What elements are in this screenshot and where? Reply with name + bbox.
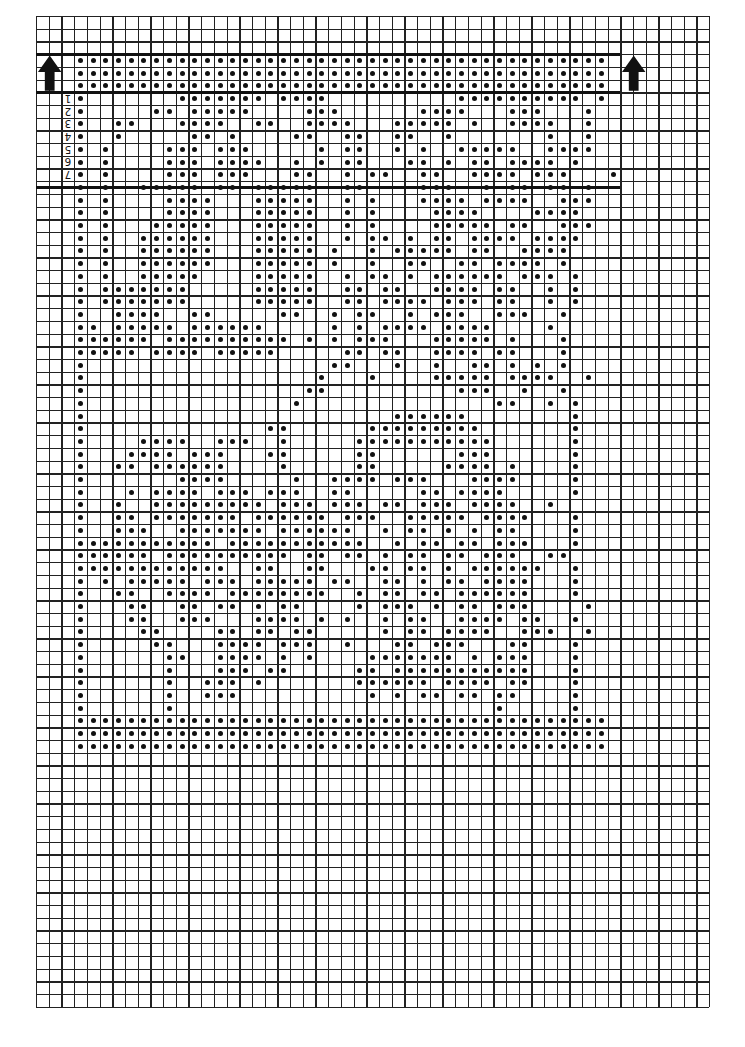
stitch-dot [434,541,439,546]
stitch-dot [294,58,299,63]
stitch-dot [205,731,210,736]
stitch-dot [510,515,515,520]
stitch-dot [408,414,413,419]
stitch-dot [472,693,477,698]
stitch-dot [561,337,566,342]
stitch-dot [510,731,515,736]
stitch-dot [307,515,312,520]
stitch-dot [548,147,553,152]
stitch-dot [446,579,451,584]
stitch-dot [345,299,350,304]
stitch-dot [78,706,83,711]
stitch-dot [345,363,350,368]
stitch-dot [192,617,197,622]
stitch-dot [383,528,388,533]
stitch-dot [256,642,261,647]
stitch-dot [586,744,591,749]
grid-line [36,16,709,17]
stitch-dot [573,541,578,546]
stitch-dot [561,388,566,393]
stitch-dot [561,350,566,355]
stitch-dot [307,96,312,101]
stitch-dot [129,617,134,622]
stitch-dot [497,312,502,317]
stitch-dot [154,325,159,330]
stitch-dot [167,223,172,228]
stitch-dot [281,198,286,203]
stitch-dot [421,477,426,482]
up-arrow-icon [621,54,646,96]
grid-line [36,308,709,309]
stitch-dot [192,452,197,457]
stitch-dot [510,198,515,203]
stitch-dot [91,541,96,546]
stitch-dot [497,236,502,241]
stitch-dot [129,350,134,355]
stitch-dot [573,490,578,495]
stitch-dot [205,109,210,114]
stitch-dot [370,274,375,279]
stitch-dot [294,401,299,406]
stitch-dot [586,147,591,152]
stitch-dot [192,71,197,76]
stitch-dot [281,744,286,749]
stitch-dot [548,744,553,749]
grid-line [36,842,709,843]
stitch-dot [218,744,223,749]
stitch-dot [472,452,477,457]
stitch-dot [497,528,502,533]
stitch-dot [370,439,375,444]
grid-line [36,384,709,385]
stitch-dot [459,58,464,63]
stitch-dot [218,109,223,114]
stitch-dot [91,71,96,76]
stitch-dot [180,172,185,177]
stitch-dot [472,477,477,482]
stitch-dot [78,223,83,228]
stitch-dot [78,147,83,152]
stitch-dot [573,579,578,584]
stitch-dot [218,452,223,457]
stitch-dot [497,401,502,406]
stitch-dot [434,363,439,368]
stitch-dot [129,731,134,736]
stitch-dot [434,287,439,292]
stitch-dot [307,744,312,749]
stitch-dot [205,744,210,749]
stitch-dot [510,541,515,546]
stitch-dot [294,312,299,317]
stitch-dot [180,541,185,546]
stitch-dot [561,71,566,76]
stitch-dot [383,299,388,304]
stitch-dot [370,58,375,63]
row-number-labels: 7654321 [62,92,74,181]
stitch-dot [561,210,566,215]
stitch-dot [192,541,197,546]
stitch-dot [243,668,248,673]
row-number: 1 [62,92,74,105]
stitch-dot [497,655,502,660]
stitch-dot [192,490,197,495]
stitch-dot [345,172,350,177]
stitch-dot [167,274,172,279]
stitch-dot [383,350,388,355]
stitch-dot [167,261,172,266]
stitch-dot [294,96,299,101]
grid-line [36,549,709,550]
stitch-dot [472,604,477,609]
stitch-dot [307,58,312,63]
stitch-dot [167,287,172,292]
stitch-dot [294,617,299,622]
stitch-dot [180,731,185,736]
stitch-dot [218,325,223,330]
grid-line [36,765,709,766]
stitch-dot [230,160,235,165]
stitch-dot [472,426,477,431]
stitch-dot [256,528,261,533]
stitch-dot [180,147,185,152]
stitch-dot [91,350,96,355]
stitch-dot [434,109,439,114]
stitch-dot [180,477,185,482]
stitch-dot [332,528,337,533]
stitch-dot [78,198,83,203]
